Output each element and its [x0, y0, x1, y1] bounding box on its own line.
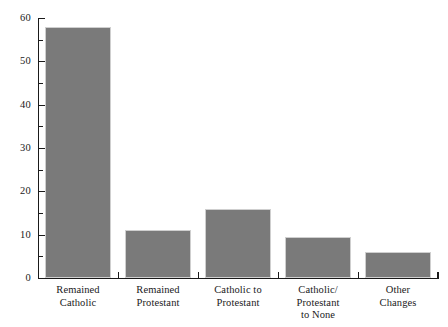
- x-axis-category-label-line: Remained: [118, 284, 198, 297]
- y-tick-label: 60: [20, 13, 31, 23]
- x-axis-category-label: Catholic toProtestant: [198, 284, 278, 309]
- plot-area: 0102030405060 RemainedCatholicRemainedPr…: [0, 0, 448, 327]
- x-axis-category-label-line: Other: [358, 284, 438, 297]
- x-axis-category-label-line: Protestant: [278, 297, 358, 310]
- x-axis-category-label: RemainedProtestant: [118, 284, 198, 309]
- bar: [365, 252, 431, 278]
- y-tick-label: 20: [20, 186, 31, 196]
- bar: [45, 27, 111, 278]
- y-tick-minor: [39, 170, 43, 171]
- x-tick: [118, 272, 119, 279]
- y-tick-label: 10: [20, 230, 31, 240]
- x-axis-category-label-line: Changes: [358, 297, 438, 310]
- x-axis-category-label: RemainedCatholic: [38, 284, 118, 309]
- x-axis-category-label-line: Catholic/: [278, 284, 358, 297]
- y-tick-minor: [39, 83, 43, 84]
- bar: [125, 230, 191, 278]
- y-tick-minor: [39, 126, 43, 127]
- y-tick-label: 50: [20, 56, 31, 66]
- x-axis-category-label-line: Protestant: [198, 297, 278, 310]
- y-tick-major: [39, 18, 45, 19]
- x-tick: [438, 272, 439, 279]
- y-tick-major: [39, 278, 45, 279]
- x-axis-line: [38, 278, 438, 279]
- y-tick-minor: [39, 213, 43, 214]
- x-tick: [278, 272, 279, 279]
- x-axis-category-label-line: Protestant: [118, 297, 198, 310]
- x-axis-category-label-line: Remained: [38, 284, 118, 297]
- x-axis-category-label: OtherChanges: [358, 284, 438, 309]
- y-tick-minor: [39, 256, 43, 257]
- x-axis-category-label-line: Catholic: [38, 297, 118, 310]
- x-tick: [358, 272, 359, 279]
- x-axis-category-label-line: Catholic to: [198, 284, 278, 297]
- x-axis-category-label: Catholic/Protestantto None: [278, 284, 358, 322]
- y-tick-label: 30: [20, 143, 31, 153]
- x-axis-category-label-line: to None: [278, 309, 358, 322]
- y-tick-label: 40: [20, 100, 31, 110]
- bar: [285, 237, 351, 278]
- bar-chart: 0102030405060 RemainedCatholicRemainedPr…: [0, 0, 448, 327]
- y-tick-label: 0: [26, 273, 31, 283]
- y-tick-minor: [39, 40, 43, 41]
- x-tick: [198, 272, 199, 279]
- bar: [205, 209, 271, 278]
